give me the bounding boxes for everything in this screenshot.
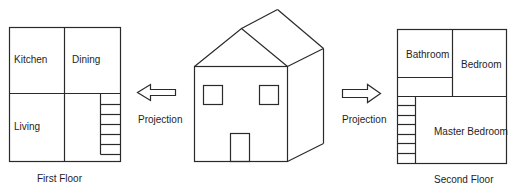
house-3d [195,10,324,162]
window-right-icon [260,86,279,105]
house-projection-diagram: Kitchen Dining Living First Floor Projec… [0,0,515,190]
first-floor-plan: Kitchen Dining Living First Floor [10,28,121,185]
house-front-face [195,67,288,162]
first-floor-stairs [101,94,121,155]
projection-label-left: Projection [138,114,182,125]
door-icon [231,134,250,162]
house-front-gable [195,29,288,67]
right-projection-arrow: Projection [342,85,386,126]
roof-back-edge [278,10,324,49]
room-label-dining: Dining [72,54,100,65]
room-label-bedroom: Bedroom [461,59,502,70]
room-label-bathroom: Bathroom [406,49,449,60]
arrow-left-icon [138,85,176,101]
room-label-living: Living [14,121,40,132]
arrow-right-icon [343,85,381,103]
house-side-bottom-edge [288,144,324,162]
room-label-master-bedroom: Master Bedroom [434,126,508,137]
first-floor-caption: First Floor [37,173,83,184]
second-floor-caption: Second Floor [434,174,494,185]
room-label-kitchen: Kitchen [14,54,47,65]
roof-eave [288,49,324,67]
second-floor-plan: Bathroom Bedroom Master Bedroom Second F… [398,30,508,186]
left-projection-arrow: Projection [138,85,183,126]
window-left-icon [204,86,223,105]
projection-label-right: Projection [342,114,386,125]
roof-ridge [242,10,278,29]
second-floor-stairs [398,97,416,164]
